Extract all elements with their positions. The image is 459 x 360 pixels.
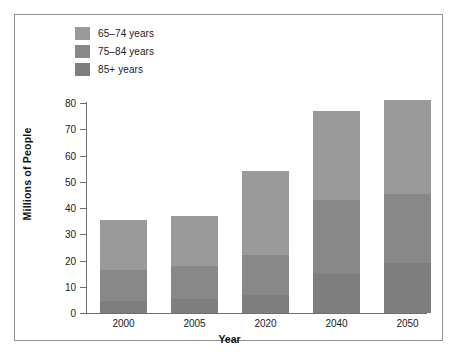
bar-segment [100,301,147,313]
bar-group [100,103,147,313]
y-axis-tick [80,234,86,235]
bar-stack [171,216,218,313]
y-axis-tick-label: 20 [6,255,76,266]
legend-item-75-84: 75–84 years [75,42,235,60]
y-axis-labels: 01020304050607080 [0,0,76,360]
bar-segment [384,263,431,313]
y-axis-tick-label: 40 [6,203,76,214]
bar-stack [100,220,147,313]
legend-swatch-85-plus-icon [75,63,90,76]
bar-group [384,103,431,313]
legend-label-85-plus: 85+ years [98,64,143,75]
legend-item-85-plus: 85+ years [75,60,235,78]
y-axis-tick-label: 70 [6,124,76,135]
bar-stack [384,100,431,313]
x-axis-tick-label: 2005 [165,318,225,329]
y-axis-tick [80,261,86,262]
bar-segment [171,266,218,299]
y-axis-tick-label: 30 [6,229,76,240]
bar-segment [313,200,360,274]
legend-swatch-65-74-icon [75,27,90,40]
legend-label-75-84: 75–84 years [98,46,154,57]
bar-segment [171,299,218,313]
y-axis-tick [80,287,86,288]
bar-segment [171,216,218,266]
bar-stack [313,111,360,313]
y-axis-tick [80,156,86,157]
x-axis-tick-label: 2000 [94,318,154,329]
chart-figure: 65–74 years 75–84 years 85+ years 010203… [0,0,459,360]
y-axis-tick [80,103,86,104]
y-axis-tick [80,208,86,209]
x-axis-tick-label: 2040 [307,318,367,329]
legend-swatch-75-84-icon [75,45,90,58]
x-axis-tick-label: 2020 [236,318,296,329]
bar-segment [242,295,289,313]
x-axis-tick-label: 2050 [378,318,438,329]
legend-label-65-74: 65–74 years [98,28,154,39]
bar-segment [313,274,360,313]
plot-area [86,103,423,313]
bar-group [313,103,360,313]
legend-item-65-74: 65–74 years [75,24,235,42]
x-axis-title: Year [0,333,459,345]
y-axis-title: Millions of People [21,104,33,244]
y-axis-tick-label: 60 [6,150,76,161]
bar-group [242,103,289,313]
y-axis-tick [80,182,86,183]
bar-group [171,103,218,313]
bar-segment [242,171,289,255]
x-axis-line [86,313,427,314]
y-axis-tick-label: 50 [6,176,76,187]
bar-segment [100,220,147,270]
y-axis-tick-label: 10 [6,281,76,292]
bar-segment [100,270,147,302]
bar-segment [242,255,289,294]
y-axis-tick [80,129,86,130]
bar-segment [384,100,431,193]
bar-segment [384,194,431,264]
y-axis-tick-label: 0 [6,308,76,319]
y-axis-tick-label: 80 [6,98,76,109]
bar-stack [242,171,289,313]
y-axis-tick [80,313,86,314]
bar-segment [313,111,360,200]
chart-legend: 65–74 years 75–84 years 85+ years [75,24,235,78]
